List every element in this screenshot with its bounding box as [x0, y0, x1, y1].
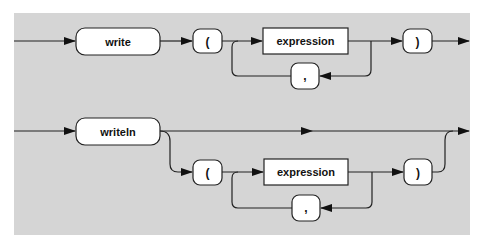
expression-label: expression	[277, 166, 335, 178]
writeln-statement-row: writeln ( expression , )	[14, 118, 469, 221]
comma-separator-node: ,	[292, 195, 320, 221]
keyword-label: writeln	[99, 126, 136, 138]
open-paren-node: (	[193, 160, 222, 185]
comma-separator-node: ,	[291, 63, 319, 89]
syntax-diagram: write ( expression , )	[0, 0, 482, 244]
close-paren-label: )	[416, 35, 420, 49]
comma-label: ,	[303, 69, 306, 83]
merge-line	[432, 131, 453, 172]
comma-label: ,	[304, 201, 307, 215]
keyword-writeln-node: writeln	[76, 118, 160, 145]
branch-arrow	[160, 131, 192, 172]
close-paren-node: )	[404, 159, 432, 185]
expression-node: expression	[263, 28, 348, 54]
open-paren-node: (	[193, 29, 222, 53]
close-paren-node: )	[403, 29, 432, 53]
expression-label: expression	[276, 35, 334, 47]
close-paren-label: )	[416, 166, 420, 180]
write-statement-row: write ( expression , )	[14, 28, 469, 89]
keyword-label: write	[104, 36, 131, 48]
keyword-write-node: write	[76, 28, 160, 55]
expression-node: expression	[264, 159, 348, 185]
open-paren-label: (	[206, 166, 210, 180]
open-paren-label: (	[206, 35, 210, 49]
